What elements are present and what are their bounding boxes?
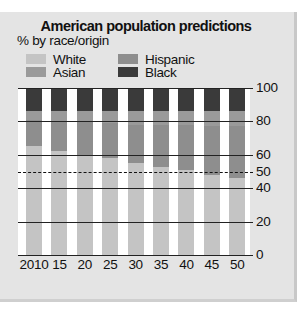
legend-swatch-white xyxy=(26,54,46,64)
bar-segment-hispanic xyxy=(229,126,245,178)
bar-segment-white xyxy=(77,155,93,255)
gridline-40 xyxy=(18,188,253,189)
bar-segment-white xyxy=(26,146,42,255)
legend-label: Asian xyxy=(53,65,85,80)
bar-segment-black xyxy=(77,88,93,111)
bar-segment-asian xyxy=(153,111,169,124)
bar-segment-asian xyxy=(26,111,42,119)
bar-segment-white xyxy=(204,175,220,255)
chart-card: American population predictions % by rac… xyxy=(0,12,297,302)
bar-segment-white xyxy=(51,151,67,255)
bar-segment-asian xyxy=(229,111,245,126)
bar-segment-hispanic xyxy=(102,123,118,158)
gridline-20 xyxy=(18,222,253,223)
bar-segment-asian xyxy=(77,111,93,121)
bar-segment-asian xyxy=(128,111,144,124)
y-tick-label: 20 xyxy=(256,215,270,229)
legend-swatch-asian xyxy=(26,67,46,77)
bar-segment-black xyxy=(153,88,169,111)
legend-swatch-hispanic xyxy=(118,54,138,64)
bar-segment-black xyxy=(229,88,245,111)
bar-segment-white xyxy=(153,167,169,256)
bar-segment-white xyxy=(229,178,245,255)
legend-item-black: Black xyxy=(118,65,177,79)
y-tick-label: 80 xyxy=(256,114,270,128)
legend-item-asian: Asian xyxy=(26,65,85,79)
chart-title: American population predictions xyxy=(0,18,292,34)
bar-segment-asian xyxy=(178,111,194,124)
y-tick-label: 40 xyxy=(256,181,270,195)
bar-segment-black xyxy=(51,88,67,111)
bar-segment-black xyxy=(178,88,194,111)
y-tick-label: 100 xyxy=(256,81,278,95)
legend-label: Black xyxy=(145,65,177,80)
bar-segment-black xyxy=(204,88,220,111)
gridline-100 xyxy=(18,88,253,89)
x-tick-label: 50 xyxy=(222,257,252,272)
bar-segment-hispanic xyxy=(153,125,169,167)
bar-segment-black xyxy=(102,88,118,111)
y-tick-label: 0 xyxy=(256,248,263,262)
gridline-60 xyxy=(18,155,253,156)
bar-segment-hispanic xyxy=(51,121,67,151)
y-tick-label: 50 xyxy=(256,165,270,179)
bar-segment-asian xyxy=(204,111,220,126)
bar-segment-white xyxy=(178,170,194,255)
bar-segment-black xyxy=(128,88,144,111)
bar-segment-hispanic xyxy=(178,125,194,170)
legend-swatch-black xyxy=(118,67,138,77)
bar-segment-hispanic xyxy=(26,120,42,147)
legend: White Hispanic Asian Black xyxy=(26,52,266,84)
bar-segment-white xyxy=(128,163,144,255)
bar-segment-hispanic xyxy=(77,121,93,154)
y-tick-label: 60 xyxy=(256,148,270,162)
bar-segment-hispanic xyxy=(204,126,220,174)
gridline-80 xyxy=(18,121,253,122)
reference-line-50 xyxy=(18,172,253,173)
chart-subtitle: % by race/origin xyxy=(17,33,109,48)
bar-segment-asian xyxy=(51,111,67,121)
bar-segment-black xyxy=(26,88,42,111)
bar-segment-hispanic xyxy=(128,125,144,163)
gridline-0 xyxy=(18,255,253,256)
